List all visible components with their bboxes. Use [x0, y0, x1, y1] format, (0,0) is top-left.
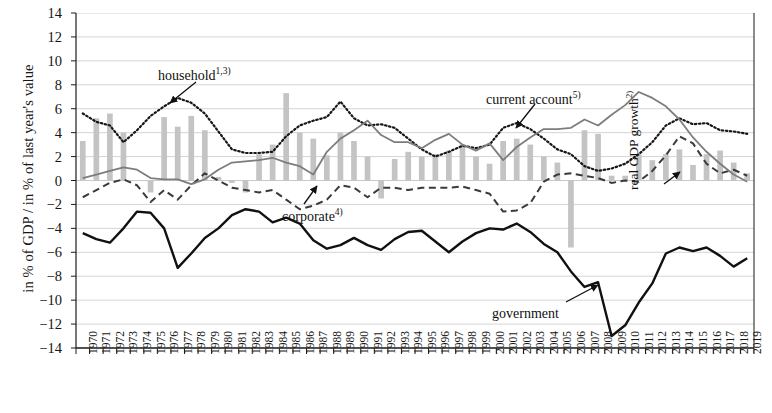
annotation-real-gdp-growth: real GDP growth2): [624, 91, 642, 190]
annotation-footnote-corporate: 4): [335, 207, 343, 217]
chart-root: in % of GDP / in % of last year's value …: [0, 0, 772, 413]
annotation-label-corporate: corporate: [282, 209, 335, 224]
annotation-footnote-household: 1,3): [216, 66, 231, 76]
annotation-label-government: government: [492, 306, 559, 321]
annotation-corporate: corporate4): [282, 207, 343, 225]
annotation-label-real-gdp-growth: real GDP growth: [626, 98, 641, 190]
annotation-label-current-account: current account: [486, 92, 573, 107]
annotation-government: government: [492, 306, 559, 322]
annotation-label-household: household: [158, 68, 216, 83]
axis-frame: [0, 0, 772, 413]
annotation-current-account: current account5): [486, 90, 581, 108]
annotation-household: household1,3): [158, 66, 231, 84]
annotation-footnote-current-account: 5): [573, 90, 581, 100]
annotation-footnote-real-gdp-growth: 2): [624, 91, 634, 99]
